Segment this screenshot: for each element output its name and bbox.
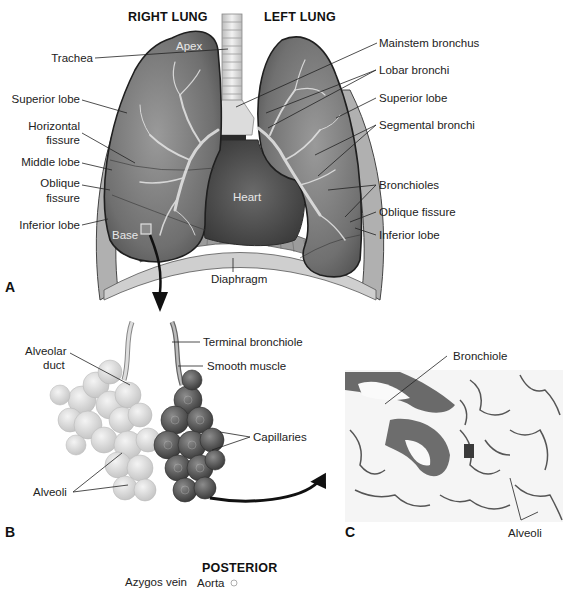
header-left-lung: LEFT LUNG <box>264 10 336 24</box>
label-alveoli-b: Alveoli <box>33 486 67 499</box>
arrow-b-to-c <box>210 482 318 501</box>
panel-letter-a: A <box>5 279 15 295</box>
label-bronchioles: Bronchioles <box>379 179 439 192</box>
label-lobar-bronchi: Lobar bronchi <box>379 64 449 77</box>
label-base: Base <box>112 229 138 241</box>
label-terminal-bronchiole: Terminal bronchiole <box>203 336 303 349</box>
cross-section-partial <box>231 580 237 586</box>
label-inferior-lobe-right: Inferior lobe <box>19 219 80 232</box>
magnified-region-box <box>141 224 151 234</box>
label-smooth-muscle: Smooth muscle <box>207 360 286 373</box>
label-aorta: Aorta <box>197 577 225 590</box>
label-mainstem-bronchus: Mainstem bronchus <box>379 37 479 50</box>
label-apex: Apex <box>176 40 202 52</box>
header-right-lung: RIGHT LUNG <box>128 10 208 24</box>
label-alveoli-c: Alveoli <box>508 527 542 540</box>
label-alveolar-duct-1: Alveolar <box>25 345 67 358</box>
label-bronchiole-c: Bronchiole <box>453 350 507 363</box>
label-azygos-vein: Azygos vein <box>125 576 187 589</box>
label-oblique-fissure-right-1: Oblique <box>40 177 80 190</box>
label-segmental-bronchi: Segmental bronchi <box>379 119 475 132</box>
capillary-network <box>154 322 225 502</box>
label-horizontal-fissure-2: fissure <box>46 134 80 147</box>
label-diaphragm: Diaphragm <box>211 273 267 286</box>
label-trachea: Trachea <box>51 52 93 65</box>
label-inferior-lobe-left: Inferior lobe <box>379 229 440 242</box>
panel-letter-c: C <box>345 524 355 540</box>
label-alveolar-duct-2: duct <box>43 359 65 372</box>
header-posterior: POSTERIOR <box>202 561 277 575</box>
label-horizontal-fissure-1: Horizontal <box>28 120 80 133</box>
label-oblique-fissure-left: Oblique fissure <box>379 206 456 219</box>
histology-micrograph <box>345 370 563 522</box>
label-middle-lobe: Middle lobe <box>21 156 80 169</box>
label-superior-lobe-left: Superior lobe <box>379 92 447 105</box>
label-heart: Heart <box>233 191 261 203</box>
label-capillaries: Capillaries <box>253 431 307 444</box>
panel-letter-b: B <box>5 524 15 540</box>
label-oblique-fissure-right-2: fissure <box>46 192 80 205</box>
label-superior-lobe-right: Superior lobe <box>12 93 80 106</box>
